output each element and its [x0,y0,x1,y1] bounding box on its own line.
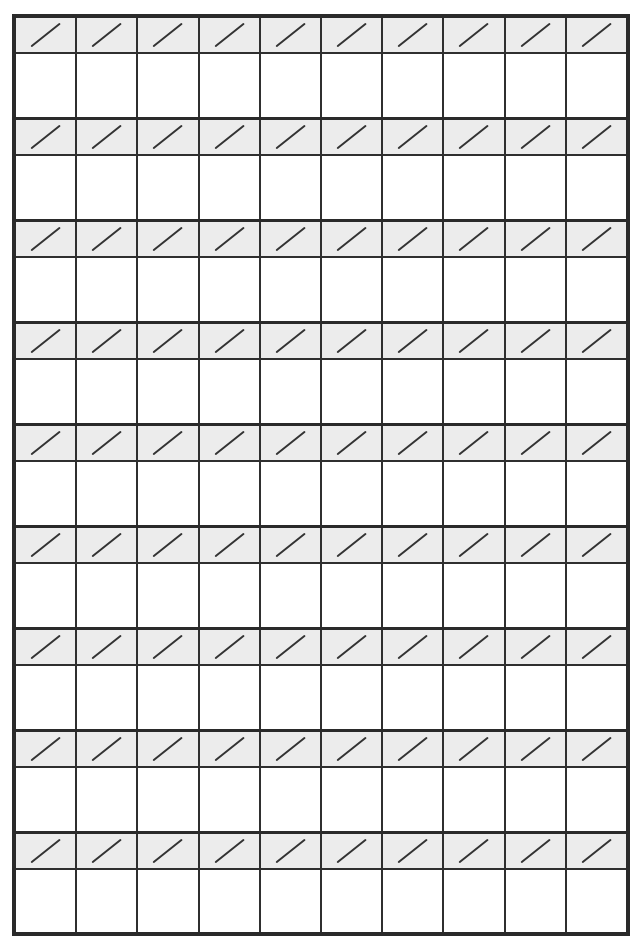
answer-cell[interactable] [200,54,261,117]
answer-cell[interactable] [77,54,138,117]
answer-cell[interactable] [444,564,505,627]
answer-cell[interactable] [567,54,626,117]
answer-cell[interactable] [261,870,322,932]
answer-cell[interactable] [383,870,444,932]
answer-cell[interactable] [322,156,383,219]
answer-cell[interactable] [200,666,261,729]
answer-cell[interactable] [16,54,77,117]
answer-cell[interactable] [77,258,138,321]
answer-cell[interactable] [567,768,626,831]
answer-cell[interactable] [567,870,626,932]
answer-cell[interactable] [506,666,567,729]
answer-cell[interactable] [444,360,505,423]
answer-cell[interactable] [506,768,567,831]
answer-cell[interactable] [567,462,626,525]
answer-cell[interactable] [444,768,505,831]
answer-cell[interactable] [200,870,261,932]
answer-cell[interactable] [383,564,444,627]
slash-cell [506,528,567,562]
answer-cell[interactable] [506,870,567,932]
answer-cell[interactable] [16,768,77,831]
answer-cell[interactable] [322,564,383,627]
answer-cell[interactable] [138,156,199,219]
answer-cell[interactable] [77,564,138,627]
answer-cell[interactable] [16,156,77,219]
answer-cell[interactable] [16,564,77,627]
answer-cell[interactable] [383,666,444,729]
answer-cell[interactable] [138,462,199,525]
answer-cell[interactable] [200,360,261,423]
answer-cell[interactable] [383,258,444,321]
answer-cell[interactable] [261,54,322,117]
answer-cell[interactable] [567,564,626,627]
answer-cell[interactable] [506,564,567,627]
answer-cell[interactable] [16,870,77,932]
answer-cell[interactable] [200,258,261,321]
answer-cell[interactable] [567,156,626,219]
answer-cell[interactable] [138,258,199,321]
slash-cell [383,834,444,868]
answer-cell[interactable] [138,768,199,831]
answer-cell[interactable] [261,156,322,219]
answer-cell[interactable] [506,54,567,117]
answer-cell[interactable] [261,564,322,627]
answer-cell[interactable] [77,360,138,423]
answer-cell[interactable] [506,258,567,321]
answer-cell[interactable] [261,360,322,423]
answer-cell[interactable] [77,462,138,525]
answer-cell[interactable] [506,156,567,219]
answer-cell[interactable] [322,258,383,321]
answer-cell[interactable] [322,462,383,525]
answer-cell[interactable] [322,870,383,932]
answer-cell[interactable] [383,156,444,219]
answer-cell[interactable] [444,870,505,932]
answer-cell[interactable] [506,360,567,423]
answer-cell[interactable] [444,462,505,525]
slash-cell [567,528,626,562]
answer-cell[interactable] [261,462,322,525]
answer-cell[interactable] [200,564,261,627]
answer-cell[interactable] [138,666,199,729]
answer-cell[interactable] [16,462,77,525]
answer-cell[interactable] [200,462,261,525]
answer-cell[interactable] [16,666,77,729]
answer-cell[interactable] [77,156,138,219]
answer-cell[interactable] [383,54,444,117]
answer-cell[interactable] [567,666,626,729]
answer-cell[interactable] [444,54,505,117]
answer-cell[interactable] [444,258,505,321]
answer-cell[interactable] [138,54,199,117]
answer-cell[interactable] [77,870,138,932]
slash-icon [77,528,136,562]
answer-cell[interactable] [261,666,322,729]
answer-cell[interactable] [444,666,505,729]
answer-cell[interactable] [567,360,626,423]
answer-cell[interactable] [261,258,322,321]
answer-cell[interactable] [322,666,383,729]
answer-cell[interactable] [16,360,77,423]
answer-cell[interactable] [138,360,199,423]
slash-cell [444,732,505,766]
answer-cell[interactable] [200,156,261,219]
answer-cell[interactable] [322,54,383,117]
answer-cell[interactable] [16,258,77,321]
answer-cell[interactable] [261,768,322,831]
answer-cell[interactable] [383,768,444,831]
answer-cell[interactable] [322,360,383,423]
answer-cell[interactable] [322,768,383,831]
answer-cell[interactable] [567,258,626,321]
answer-cell[interactable] [444,156,505,219]
slash-icon [567,222,626,256]
answer-cell[interactable] [383,360,444,423]
slash-cell [77,18,138,52]
answer-cell[interactable] [138,564,199,627]
answer-cell[interactable] [77,666,138,729]
answer-cell[interactable] [506,462,567,525]
slash-cell [16,834,77,868]
slash-cell [138,426,199,460]
answer-cell[interactable] [383,462,444,525]
answer-cell[interactable] [200,768,261,831]
answer-cell[interactable] [77,768,138,831]
worksheet-row [16,732,626,834]
answer-cell[interactable] [138,870,199,932]
